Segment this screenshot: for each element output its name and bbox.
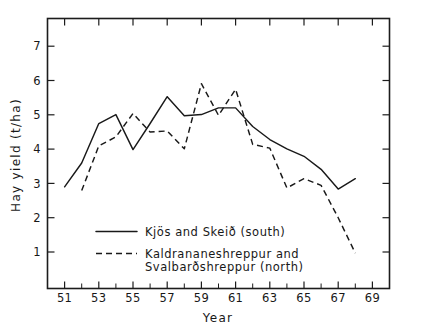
legend-label-north-line1: Kaldrananeshreppur and xyxy=(145,247,299,261)
x-tick-label: 63 xyxy=(262,291,277,305)
legend-label-north-line2: Svalbarðshreppur (north) xyxy=(145,260,304,274)
y-tick-label: 7 xyxy=(33,39,41,53)
y-tick-label: 5 xyxy=(33,108,41,122)
y-axis-ticks-right xyxy=(383,46,390,252)
x-axis-title: Year xyxy=(202,311,234,325)
y-tick-label: 4 xyxy=(33,142,41,156)
x-tick-label: 53 xyxy=(91,291,106,305)
legend-label-south: Kjös and Skeið (south) xyxy=(145,225,285,239)
hay-yield-line-chart: 7 6 5 4 3 2 1 xyxy=(0,0,423,331)
x-axis-ticks-top xyxy=(65,19,373,26)
y-axis-ticks xyxy=(48,46,55,252)
x-tick-label: 65 xyxy=(296,291,311,305)
x-tick-label: 67 xyxy=(330,291,345,305)
x-tick-label: 59 xyxy=(194,291,209,305)
x-tick-label: 57 xyxy=(159,291,174,305)
y-axis-tick-labels: 7 6 5 4 3 2 1 xyxy=(33,39,41,259)
legend: Kjös and Skeið (south) Kaldrananeshreppu… xyxy=(96,225,304,274)
x-tick-label: 55 xyxy=(125,291,140,305)
y-tick-label: 2 xyxy=(33,211,41,225)
y-tick-label: 6 xyxy=(33,74,41,88)
x-axis-tick-labels: 51 53 55 57 59 61 63 65 67 69 xyxy=(57,291,380,305)
y-tick-label: 3 xyxy=(33,177,41,191)
x-tick-label: 51 xyxy=(57,291,72,305)
x-tick-label: 69 xyxy=(365,291,380,305)
x-tick-label: 61 xyxy=(228,291,243,305)
chart-svg: 7 6 5 4 3 2 1 xyxy=(0,0,423,331)
series-line-south xyxy=(65,97,356,189)
y-tick-label: 1 xyxy=(33,245,41,259)
y-axis-title: Hay yield (t/ha) xyxy=(9,98,23,212)
